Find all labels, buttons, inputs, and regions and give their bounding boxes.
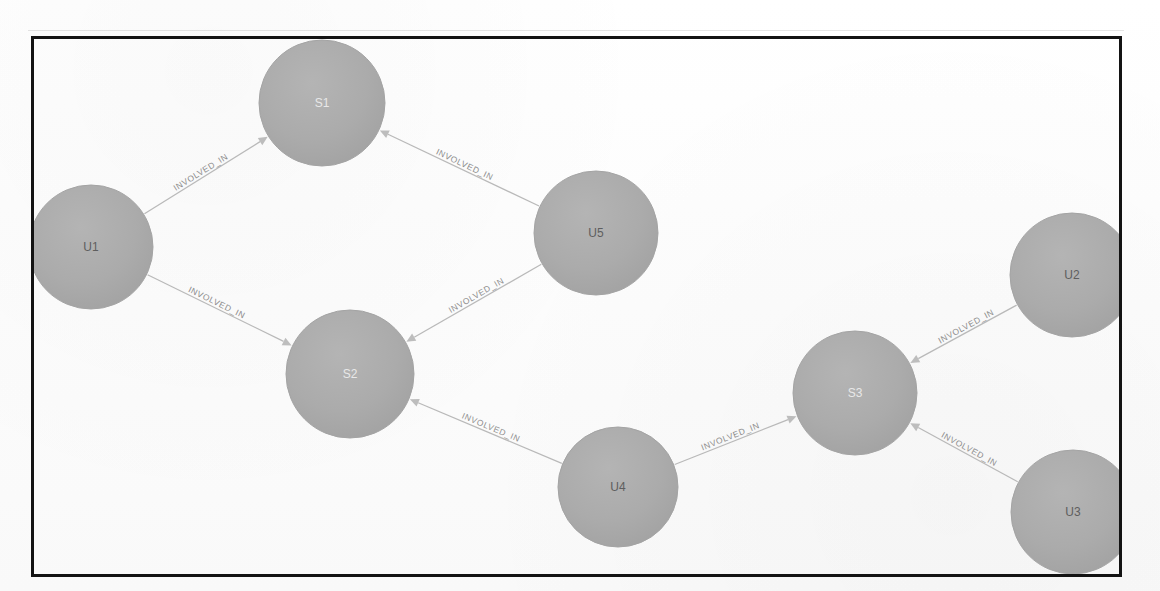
figure-page: INVOLVED_ININVOLVED_ININVOLVED_ININVOLVE… xyxy=(0,0,1160,591)
figure-border xyxy=(31,36,1122,577)
